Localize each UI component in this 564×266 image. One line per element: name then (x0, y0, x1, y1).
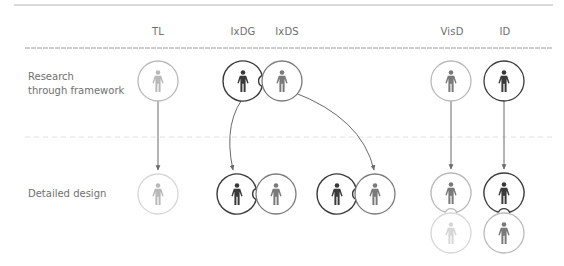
node-ixds-detailed-a (256, 174, 296, 214)
node-id-detailed (484, 173, 524, 212)
node-visd-detailed (431, 173, 471, 212)
ixds-arrow (293, 92, 374, 170)
node-ixds-detailed-b (355, 174, 395, 214)
node-visd-detailed-support (431, 213, 471, 253)
node-id-research (484, 61, 524, 101)
node-ixdg-detailed-a (217, 174, 256, 214)
node-tl-detailed (138, 174, 178, 214)
node-ixdg-research (223, 61, 262, 101)
node-ixds-research (262, 61, 302, 101)
node-id-detailed-support (484, 213, 524, 253)
ixdg-arrow (230, 92, 248, 170)
node-tl-research (138, 61, 178, 101)
diagram-canvas (0, 0, 564, 266)
node-visd-research (431, 61, 471, 101)
node-ixdg-detailed-b (317, 174, 356, 214)
edges-layer (158, 92, 504, 170)
nodes-layer (138, 61, 524, 253)
